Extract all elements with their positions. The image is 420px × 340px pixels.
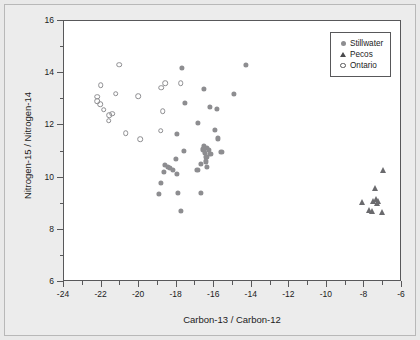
x-tick-minor <box>194 281 195 285</box>
data-point-stillwater <box>174 171 179 176</box>
data-point-stillwater <box>175 190 180 195</box>
data-point-stillwater <box>182 148 187 153</box>
x-tick-major <box>363 281 364 287</box>
x-tick-minor <box>382 281 383 285</box>
data-point-stillwater <box>204 165 209 170</box>
y-tick-major <box>57 20 63 21</box>
x-tick-label: -20 <box>132 289 144 299</box>
y-tick-major <box>57 72 63 73</box>
x-tick-label: -16 <box>207 289 219 299</box>
data-point-stillwater <box>174 131 179 136</box>
data-point-stillwater <box>173 156 178 161</box>
data-point-stillwater <box>158 180 163 185</box>
x-tick-label: -18 <box>170 289 182 299</box>
y-tick-label: 12 <box>33 119 54 129</box>
y-tick-label: 14 <box>33 67 54 77</box>
y-tick-minor <box>60 151 64 152</box>
x-tick-label: -10 <box>320 289 332 299</box>
y-tick-minor <box>60 203 64 204</box>
x-tick-major <box>288 281 289 287</box>
data-point-ontario <box>101 107 107 113</box>
y-tick-major <box>57 177 63 178</box>
legend-marker-icon <box>337 41 349 46</box>
legend-item-label: Pecos <box>350 50 373 59</box>
x-tick-label: -22 <box>94 289 106 299</box>
y-axis-label: Nitrogen-15 / Nitrogen-14 <box>22 66 33 226</box>
data-point-ontario <box>135 93 141 99</box>
figure-container: -24-22-20-18-16-14-12-10-8-66810121416 C… <box>0 0 420 340</box>
data-point-stillwater <box>198 191 203 196</box>
x-tick-label: -6 <box>397 289 405 299</box>
legend-item-pecos[interactable]: Pecos <box>337 49 383 60</box>
x-tick-major <box>401 281 402 287</box>
data-point-pecos <box>359 199 365 205</box>
legend-marker-icon <box>337 52 349 57</box>
y-tick-minor <box>60 255 64 256</box>
x-tick-label: -12 <box>282 289 294 299</box>
x-axis-label: Carbon-13 / Carbon-12 <box>63 314 401 325</box>
data-point-pecos <box>372 185 378 191</box>
x-tick-label: -14 <box>245 289 257 299</box>
data-point-ontario <box>106 118 112 124</box>
data-point-stillwater <box>195 121 200 126</box>
x-tick-major <box>63 281 64 287</box>
legend-item-stillwater[interactable]: Stillwater <box>337 38 383 49</box>
data-point-ontario <box>160 108 166 114</box>
x-tick-major <box>176 281 177 287</box>
data-point-stillwater <box>179 65 184 70</box>
y-tick-label: 6 <box>33 276 54 286</box>
data-point-stillwater <box>183 100 188 105</box>
y-tick-label: 16 <box>33 15 54 25</box>
x-tick-major <box>101 281 102 287</box>
x-tick-major <box>251 281 252 287</box>
data-point-pecos <box>379 209 385 215</box>
data-point-pecos <box>380 167 386 173</box>
data-point-ontario <box>117 62 123 68</box>
y-tick-major <box>57 281 63 282</box>
data-point-stillwater <box>213 127 218 132</box>
x-tick-minor <box>232 281 233 285</box>
data-point-ontario <box>158 128 164 134</box>
data-point-pecos <box>369 208 375 214</box>
x-tick-minor <box>157 281 158 285</box>
data-point-ontario <box>113 91 119 97</box>
data-point-stillwater <box>203 159 208 164</box>
y-tick-minor <box>60 98 64 99</box>
data-point-ontario <box>98 82 104 88</box>
x-tick-major <box>213 281 214 287</box>
y-tick-label: 10 <box>33 172 54 182</box>
data-point-ontario <box>178 80 184 86</box>
data-point-pecos <box>374 200 380 206</box>
x-tick-minor <box>119 281 120 285</box>
data-point-ontario <box>137 136 143 142</box>
x-tick-minor <box>270 281 271 285</box>
legend: StillwaterPecosOntario <box>330 32 391 77</box>
data-point-stillwater <box>219 149 224 154</box>
data-point-ontario <box>123 130 129 136</box>
data-point-stillwater <box>231 91 236 96</box>
y-tick-major <box>57 124 63 125</box>
data-point-ontario <box>162 80 168 86</box>
x-tick-major <box>326 281 327 287</box>
data-point-stillwater <box>198 161 203 166</box>
data-point-ontario <box>97 101 103 107</box>
data-point-stillwater <box>178 208 183 213</box>
data-point-stillwater <box>215 136 220 141</box>
legend-item-ontario[interactable]: Ontario <box>337 60 383 71</box>
data-point-stillwater <box>161 169 166 174</box>
legend-item-label: Stillwater <box>350 39 383 48</box>
legend-item-label: Ontario <box>350 61 377 70</box>
y-tick-minor <box>60 46 64 47</box>
legend-marker-icon <box>337 63 349 68</box>
data-point-stillwater <box>207 104 212 109</box>
data-point-stillwater <box>214 106 219 111</box>
data-point-stillwater <box>243 62 248 67</box>
data-point-stillwater <box>208 151 213 156</box>
x-tick-minor <box>345 281 346 285</box>
x-tick-label: -24 <box>57 289 69 299</box>
y-tick-label: 8 <box>33 224 54 234</box>
x-tick-label: -8 <box>360 289 368 299</box>
x-tick-minor <box>82 281 83 285</box>
x-tick-major <box>138 281 139 287</box>
data-point-stillwater <box>195 167 200 172</box>
